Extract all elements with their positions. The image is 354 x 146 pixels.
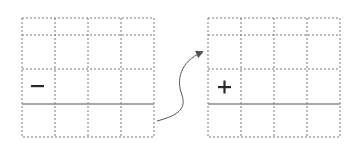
- right-grid: [208, 18, 340, 137]
- minus-sign-icon: [31, 85, 44, 87]
- plus-sign-icon: [218, 81, 231, 94]
- diagram-canvas: [0, 0, 354, 146]
- left-grid: [22, 18, 154, 137]
- curved-arrow-icon: [157, 52, 202, 121]
